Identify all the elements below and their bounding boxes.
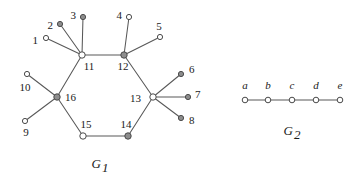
graph-node-label-G1-9: 9 bbox=[23, 126, 29, 138]
graph-node-label-G1-13: 13 bbox=[130, 92, 142, 104]
graph-caption-G2: G2 bbox=[284, 123, 301, 142]
graph-node-G2-c bbox=[289, 97, 295, 103]
graph-node-label-G2-d: d bbox=[313, 79, 319, 91]
graph-node-label-G1-10: 10 bbox=[20, 81, 32, 93]
graph-node-label-G1-6: 6 bbox=[189, 63, 195, 75]
graph-node-label-G2-b: b bbox=[265, 79, 271, 91]
graph-node-label-G2-e: e bbox=[338, 79, 343, 91]
graph-node-G1-6 bbox=[178, 71, 183, 76]
graph-node-G1-10 bbox=[24, 71, 29, 76]
graph-node-label-G2-a: a bbox=[242, 79, 248, 91]
graph-node-G1-11 bbox=[79, 52, 85, 58]
graph-edge-G1-11-3 bbox=[82, 17, 83, 55]
graph-node-label-G1-11: 11 bbox=[84, 60, 95, 72]
graph-edge-G1-16-9 bbox=[25, 97, 57, 121]
graph-node-G1-16 bbox=[54, 94, 60, 100]
graph-node-label-G1-2: 2 bbox=[48, 19, 54, 31]
graph-edge-G1-13-8 bbox=[153, 97, 181, 118]
graph-caption-subscript-G1: 1 bbox=[102, 160, 109, 175]
graph-caption-G1: G1 bbox=[92, 156, 109, 175]
graph-node-G1-2 bbox=[57, 21, 62, 26]
graph-node-G1-7 bbox=[185, 94, 190, 99]
graph-node-G1-5 bbox=[157, 34, 162, 39]
nodes-layer bbox=[22, 14, 342, 139]
graph-node-label-G1-15: 15 bbox=[81, 118, 93, 130]
graph-captions-layer: G1G2 bbox=[92, 123, 301, 175]
graph-node-G1-14 bbox=[125, 133, 131, 139]
graph-node-label-G1-7: 7 bbox=[195, 88, 201, 100]
graph-caption-subscript-G2: 2 bbox=[294, 127, 301, 142]
graph-node-label-G1-5: 5 bbox=[156, 20, 162, 32]
graph-node-G1-3 bbox=[80, 14, 85, 19]
graph-node-label-G1-16: 16 bbox=[65, 91, 77, 103]
graph-node-G2-a bbox=[242, 97, 248, 103]
graph-node-label-G1-12: 12 bbox=[118, 60, 129, 72]
graph-node-G1-4 bbox=[126, 14, 131, 19]
graph-node-label-G1-14: 14 bbox=[121, 118, 133, 130]
graph-node-G2-b bbox=[265, 97, 271, 103]
graph-node-G1-9 bbox=[22, 118, 27, 123]
graph-node-G1-1 bbox=[43, 35, 48, 40]
graph-figure-canvas: 12345678910111213141516abcde G1G2 bbox=[0, 0, 364, 179]
figure-root: 12345678910111213141516abcde G1G2 bbox=[0, 0, 364, 179]
graph-node-label-G1-4: 4 bbox=[117, 9, 123, 21]
graph-node-label-G2-c: c bbox=[290, 79, 295, 91]
graph-node-G2-d bbox=[313, 97, 319, 103]
graph-node-G1-13 bbox=[150, 94, 156, 100]
graph-node-label-G1-1: 1 bbox=[33, 34, 39, 46]
graph-node-label-G1-8: 8 bbox=[189, 114, 195, 126]
graph-edge-G1-12-5 bbox=[124, 37, 160, 55]
graph-edge-G1-15-16 bbox=[57, 97, 83, 136]
graph-node-G1-15 bbox=[80, 133, 86, 139]
graph-node-G1-8 bbox=[178, 115, 183, 120]
graph-edge-G1-12-4 bbox=[124, 17, 129, 55]
graph-node-label-G1-3: 3 bbox=[71, 9, 77, 21]
graph-edge-G1-16-10 bbox=[27, 74, 57, 97]
graph-edge-G1-13-6 bbox=[153, 74, 181, 97]
graph-node-G2-e bbox=[337, 97, 343, 103]
graph-node-G1-12 bbox=[121, 52, 127, 58]
